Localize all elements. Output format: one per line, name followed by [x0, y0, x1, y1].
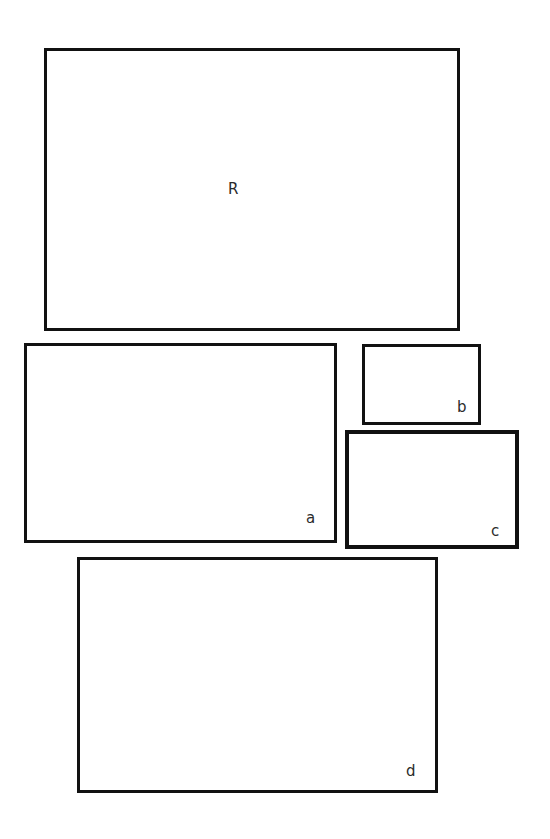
rectangle-c-label: c: [491, 524, 499, 539]
rectangle-a-label: a: [306, 511, 315, 526]
rectangle-d: [77, 557, 438, 793]
rectangle-a: [24, 343, 337, 543]
rectangle-R-label: R: [228, 182, 238, 197]
rectangle-d-label: d: [406, 764, 416, 779]
rectangle-b-label: b: [457, 400, 467, 415]
diagram-canvas: R a b c d: [0, 0, 550, 839]
rectangle-R: [44, 48, 460, 331]
